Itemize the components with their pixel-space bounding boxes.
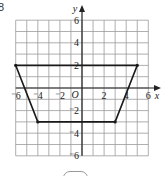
x-tick-label: ⁻2 [55, 90, 65, 101]
origin-label: O [71, 89, 78, 100]
vertex-point [36, 120, 39, 123]
y-tick-label: ⁻2 [69, 105, 79, 116]
vertex-point [114, 120, 117, 123]
coordinate-grid-diagram: ⁻6⁻4⁻2246642⁻2⁻4⁻6Oxy [0, 0, 165, 176]
y-tick-label: 6 [74, 15, 79, 26]
y-tick-label: ⁻4 [69, 128, 79, 139]
x-axis-label: x [154, 90, 160, 101]
answer-box[interactable] [63, 171, 88, 176]
vertex-point [14, 64, 17, 67]
x-tick-label: 6 [146, 90, 151, 101]
x-tick-label: ⁻6 [11, 90, 21, 101]
y-tick-label: ⁻6 [69, 150, 79, 161]
x-tick-label: ⁻4 [33, 90, 43, 101]
x-tick-label: 2 [102, 90, 107, 101]
vertex-point [136, 64, 139, 67]
y-tick-label: 4 [74, 37, 79, 48]
y-axis-label: y [72, 3, 78, 14]
y-axis-arrow-icon [79, 5, 85, 12]
